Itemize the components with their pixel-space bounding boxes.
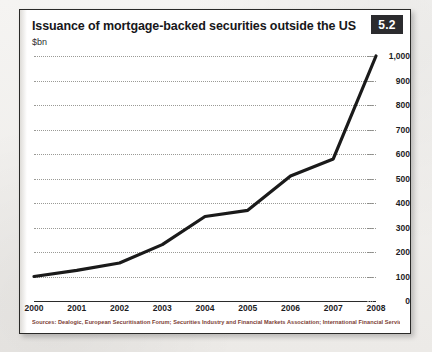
x-axis-tick-label: 2002 bbox=[110, 303, 129, 313]
chart-title: Issuance of mortgage-backed securities o… bbox=[32, 19, 356, 33]
chart-units-label: $bn bbox=[32, 37, 47, 47]
y-axis-tick-label: 400 bbox=[376, 198, 410, 208]
y-axis-labels: 01002003004005006007008009001,000 bbox=[376, 56, 420, 301]
screenshot-root: Issuance of mortgage-backed securities o… bbox=[0, 0, 432, 352]
y-axis-tick-label: 800 bbox=[376, 100, 410, 110]
y-axis-tick-label: 700 bbox=[376, 125, 410, 135]
data-line-series bbox=[34, 56, 376, 301]
x-axis-tick-label: 2007 bbox=[324, 303, 343, 313]
y-axis-tick-label: 900 bbox=[376, 76, 410, 86]
x-axis-tick-label: 2001 bbox=[67, 303, 86, 313]
x-axis-tick-label: 2003 bbox=[153, 303, 172, 313]
x-axis-tick-label: 2006 bbox=[281, 303, 300, 313]
plot-area bbox=[34, 56, 376, 301]
axis-baseline bbox=[34, 301, 376, 302]
source-note: Sources: Dealogic, European Securitisati… bbox=[32, 319, 400, 325]
y-axis-tick-label: 1,000 bbox=[376, 51, 410, 61]
chart-card: Issuance of mortgage-backed securities o… bbox=[19, 9, 411, 334]
y-axis-tick-label: 600 bbox=[376, 149, 410, 159]
x-axis-tick-label: 2000 bbox=[25, 303, 44, 313]
y-axis-tick-label: 500 bbox=[376, 174, 410, 184]
x-axis-labels: 200020012002200320042005200620072008 bbox=[34, 303, 376, 319]
figure-number-badge: 5.2 bbox=[371, 15, 403, 34]
x-axis-tick-label: 2008 bbox=[367, 303, 386, 313]
x-axis-tick-label: 2005 bbox=[238, 303, 257, 313]
y-axis-tick-label: 300 bbox=[376, 223, 410, 233]
y-axis-tick-label: 100 bbox=[376, 272, 410, 282]
x-axis-tick-label: 2004 bbox=[196, 303, 215, 313]
y-axis-tick-label: 200 bbox=[376, 247, 410, 257]
